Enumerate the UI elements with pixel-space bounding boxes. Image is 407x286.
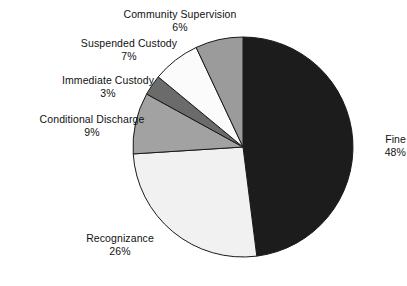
slice-label-recognizance: Recognizance 26%	[58, 232, 182, 258]
slice-label-name: Immediate Custody	[40, 74, 176, 87]
slice-label-value: 7%	[58, 50, 200, 63]
slice-label-value: 48%	[360, 146, 406, 159]
slice-label-community-supervision: Community Supervision 6%	[106, 8, 254, 34]
pie-slice-fine	[243, 37, 353, 256]
slice-label-fine: Fine 48%	[360, 133, 406, 159]
slice-label-value: 26%	[58, 245, 182, 258]
slice-label-value: 9%	[8, 126, 176, 139]
pie-chart: Community Supervision 6% Suspended Custo…	[0, 0, 407, 286]
slice-label-value: 6%	[106, 21, 254, 34]
slice-label-conditional-discharge: Conditional Discharge 9%	[8, 113, 176, 139]
slice-label-suspended-custody: Suspended Custody 7%	[58, 37, 200, 63]
slice-label-value: 3%	[40, 87, 176, 100]
slice-label-name: Recognizance	[58, 232, 182, 245]
slice-label-immediate-custody: Immediate Custody 3%	[40, 74, 176, 100]
slice-label-name: Conditional Discharge	[8, 113, 176, 126]
slice-label-name: Fine	[360, 133, 406, 146]
pie-slices-group	[133, 37, 353, 257]
slice-label-name: Community Supervision	[106, 8, 254, 21]
slice-label-name: Suspended Custody	[58, 37, 200, 50]
